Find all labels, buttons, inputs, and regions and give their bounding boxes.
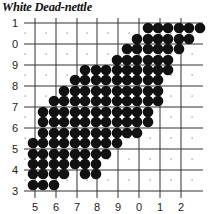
occurrence-dot: [132, 107, 143, 118]
occurrence-dot: [132, 117, 143, 128]
occurrence-dot: [132, 75, 143, 86]
occurrence-dot: [112, 128, 123, 139]
occurrence-dot: [163, 44, 174, 55]
x-axis-label: 9: [115, 201, 121, 213]
occurrence-dot: [174, 34, 185, 45]
empty-marker: [129, 159, 130, 160]
x-axis-labels: 56789012: [32, 201, 184, 213]
empty-marker: [46, 75, 47, 76]
occurrence-dot: [28, 138, 39, 149]
occurrence-dot: [49, 117, 60, 128]
occurrence-dot: [122, 117, 133, 128]
occurrence-dot: [70, 117, 81, 128]
y-axis-label: 3: [12, 185, 18, 197]
empty-marker: [46, 96, 47, 97]
occurrence-dot: [143, 65, 154, 76]
empty-marker: [25, 138, 26, 139]
occurrence-dot: [143, 107, 154, 118]
occurrence-dot: [28, 169, 39, 180]
empty-marker: [171, 96, 172, 97]
empty-marker: [129, 33, 130, 34]
occurrence-dot: [59, 159, 70, 170]
y-axis-label: 4: [12, 164, 18, 176]
empty-marker: [192, 159, 193, 160]
empty-marker: [192, 54, 193, 55]
occurrence-dot: [153, 44, 164, 55]
occurrence-dot: [174, 23, 185, 34]
empty-marker: [129, 180, 130, 181]
occurrence-dot: [59, 128, 70, 139]
occurrence-dot: [184, 34, 195, 45]
occurrence-dot: [101, 75, 112, 86]
occurrence-dot: [80, 117, 91, 128]
occurrence-dot: [195, 23, 206, 34]
occurrence-dot: [91, 149, 102, 160]
occurrence-dot: [70, 86, 81, 97]
occurrence-dot: [163, 65, 174, 76]
empty-marker: [171, 33, 172, 34]
occurrence-dot: [153, 65, 164, 76]
occurrence-dot: [122, 107, 133, 118]
occurrence-dot: [174, 44, 185, 55]
occurrence-dot: [143, 75, 154, 86]
empty-marker: [67, 33, 68, 34]
x-axis-label: 6: [53, 201, 59, 213]
occurrence-dot: [38, 180, 49, 191]
occurrence-dot: [132, 96, 143, 107]
empty-marker: [171, 159, 172, 160]
distribution-map: 109876543 56789012: [0, 0, 215, 214]
occurrence-dot: [91, 96, 102, 107]
occurrence-dot: [101, 65, 112, 76]
empty-marker: [192, 75, 193, 76]
empty-marker: [150, 159, 151, 160]
occurrence-dot: [153, 86, 164, 97]
empty-marker: [171, 75, 172, 76]
empty-marker: [150, 180, 151, 181]
empty-marker: [87, 180, 88, 181]
occurrence-dot: [112, 138, 123, 149]
empty-marker: [108, 54, 109, 55]
occurrence-dot: [38, 169, 49, 180]
empty-marker: [171, 54, 172, 55]
occurrence-dot: [80, 96, 91, 107]
occurrence-dot: [143, 117, 154, 128]
y-axis-labels: 109876543: [12, 17, 18, 197]
occurrence-dot: [112, 75, 123, 86]
empty-marker: [25, 159, 26, 160]
occurrence-dot: [132, 128, 143, 139]
occurrence-dot: [80, 86, 91, 97]
occurrence-dot: [28, 159, 39, 170]
occurrence-dot: [38, 149, 49, 160]
occurrence-dot: [70, 138, 81, 149]
occurrence-dot: [122, 55, 133, 66]
occurrence-dot: [80, 169, 91, 180]
occurrence-dot: [122, 128, 133, 139]
empty-marker: [171, 180, 172, 181]
occurrence-dot: [101, 96, 112, 107]
occurrence-dot: [70, 75, 81, 86]
x-axis-label: 2: [178, 201, 184, 213]
occurrence-dot: [112, 96, 123, 107]
y-axis-label: 7: [12, 101, 18, 113]
occurrence-dot: [80, 138, 91, 149]
occurrence-dot: [163, 34, 174, 45]
empty-marker: [25, 96, 26, 97]
occurrence-dot: [59, 169, 70, 180]
occurrence-dot: [59, 138, 70, 149]
x-axis-label: 5: [32, 201, 38, 213]
x-axis-label: 1: [157, 201, 163, 213]
empty-marker: [25, 54, 26, 55]
empty-marker: [46, 33, 47, 34]
occurrence-dot: [91, 138, 102, 149]
occurrence-dot: [28, 180, 39, 191]
x-axis-label: 0: [136, 201, 142, 213]
occurrence-dot: [38, 138, 49, 149]
y-axis-label: 8: [12, 80, 18, 92]
occurrence-dot: [153, 23, 164, 34]
occurrence-dot: [49, 107, 60, 118]
empty-marker: [25, 180, 26, 181]
occurrence-dot: [153, 55, 164, 66]
occurrence-dot: [132, 44, 143, 55]
occurrence-dot: [163, 55, 174, 66]
occurrence-dot: [49, 138, 60, 149]
